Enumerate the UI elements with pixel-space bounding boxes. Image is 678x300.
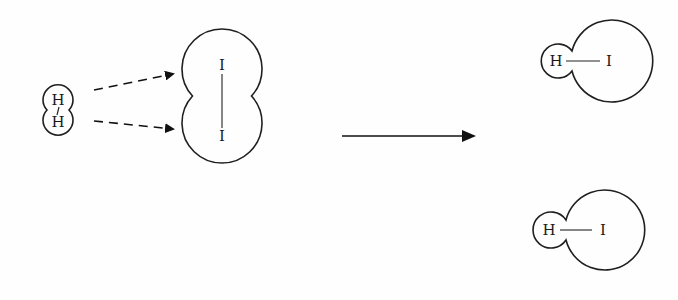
i2-atom-bottom: I xyxy=(219,127,225,145)
hi-bottom-atom-h: H xyxy=(542,221,555,239)
dashed-arrow-bottom xyxy=(94,121,173,129)
h2-atom-top: H xyxy=(51,91,64,109)
h2-molecule: H H xyxy=(43,85,73,135)
hi-top-atom-h: H xyxy=(549,52,562,70)
i2-atom-top: I xyxy=(219,56,225,74)
hi-bottom-atom-i: I xyxy=(600,221,606,239)
hi-product-top: H I xyxy=(541,20,653,102)
i2-molecule: I I xyxy=(182,29,262,163)
dashed-arrow-top xyxy=(94,74,173,90)
reaction-diagram: H H I I H I H I xyxy=(0,0,678,300)
hi-top-atom-i: I xyxy=(606,52,612,70)
hi-product-bottom: H I xyxy=(533,190,645,270)
h2-atom-bottom: H xyxy=(51,113,64,131)
